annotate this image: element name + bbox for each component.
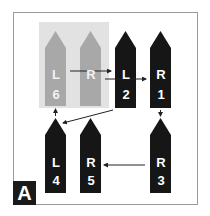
piece-L2-order: 2: [115, 88, 137, 102]
piece-R3-order: 3: [150, 174, 172, 188]
piece-R5-side: R: [80, 156, 102, 170]
arrow-L2-to-L4: [63, 110, 113, 123]
piece-R3-side: R: [150, 156, 172, 170]
piece-R1-side: R: [150, 68, 172, 82]
piece-R6-side: R: [80, 68, 102, 82]
piece-R1-order: 1: [150, 88, 172, 102]
panel-label: A: [13, 181, 36, 205]
piece-R5-order: 5: [80, 174, 102, 188]
piece-L4-side: L: [45, 156, 67, 170]
piece-L6-side: L: [45, 68, 67, 82]
piece-L2-side: L: [115, 68, 137, 82]
piece-L6-order: 6: [45, 88, 67, 102]
piece-L4-order: 4: [45, 174, 67, 188]
